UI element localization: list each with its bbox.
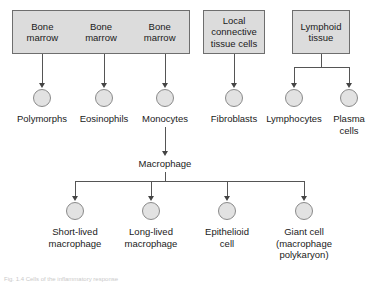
connector-macrophage-stem bbox=[165, 172, 166, 181]
arrowhead-fibroblasts bbox=[231, 83, 237, 88]
cell-circle-long-lived-macrophage bbox=[142, 202, 160, 220]
cell-label-monocytes: Monocytes bbox=[128, 113, 202, 125]
derivative-label-long-lived-macrophage: Long-lived macrophage bbox=[109, 226, 193, 249]
connector-lymphoid-to-plasma-cells bbox=[349, 67, 350, 84]
arrowhead-macrophage bbox=[162, 151, 168, 156]
cell-label-lymphocytes: Lymphocytes bbox=[257, 113, 331, 125]
derivative-label-short-lived-macrophage: Short-lived macrophage bbox=[33, 226, 117, 249]
connector-macrophage-to-epithelioid bbox=[227, 181, 228, 197]
source-label-bone-marrow-1: Bone marrow bbox=[13, 21, 72, 44]
connector-lymphoid-to-lymphocytes bbox=[294, 67, 295, 84]
derivative-label-giant-cell: Giant cell (macrophage polykaryon) bbox=[258, 226, 350, 261]
figure-caption: Fig. 1.4 Cells of the inflammatory respo… bbox=[4, 276, 118, 283]
cell-circle-monocytes bbox=[156, 89, 174, 107]
connector-monocytes-to-macrophage bbox=[165, 127, 166, 152]
arrowhead-plasma-cells bbox=[346, 83, 352, 88]
derivative-label-epithelioid-cell: Epithelioid cell bbox=[185, 226, 269, 249]
connector-bone-marrow-3-to-monocytes bbox=[165, 54, 166, 84]
connector-lymphoid-tissue-stem bbox=[321, 54, 322, 67]
cell-circle-epithelioid-cell bbox=[218, 202, 236, 220]
connector-bone-marrow-1-to-polymorphs bbox=[42, 54, 43, 84]
arrowhead-giant-cell bbox=[301, 196, 307, 201]
connector-local-connective-to-fibroblasts bbox=[234, 54, 235, 84]
source-box-local-connective-tissue-cells: Local connective tissue cells bbox=[203, 10, 265, 54]
diagram-canvas: Bone marrow Bone marrow Bone marrow Loca… bbox=[0, 0, 383, 284]
source-box-bone-marrow-group: Bone marrow Bone marrow Bone marrow bbox=[12, 10, 190, 54]
connector-macrophage-bus bbox=[75, 181, 304, 182]
connector-lymphoid-tissue-bus bbox=[294, 67, 349, 68]
arrowhead-long-lived-macrophage bbox=[148, 196, 154, 201]
connector-bone-marrow-2-to-eosinophils bbox=[104, 54, 105, 84]
arrowhead-epithelioid-cell bbox=[224, 196, 230, 201]
arrowhead-polymorphs bbox=[39, 83, 45, 88]
source-box-lymphoid-tissue: Lymphoid tissue bbox=[292, 10, 350, 54]
arrowhead-eosinophils bbox=[101, 83, 107, 88]
cell-circle-short-lived-macrophage bbox=[66, 202, 84, 220]
source-label-bone-marrow-3: Bone marrow bbox=[130, 21, 189, 44]
arrowhead-short-lived-macrophage bbox=[72, 196, 78, 201]
connector-macrophage-to-short-lived bbox=[75, 181, 76, 197]
connector-macrophage-to-long-lived bbox=[151, 181, 152, 197]
source-label-lymphoid-tissue: Lymphoid tissue bbox=[293, 21, 349, 44]
cell-circle-lymphocytes bbox=[285, 89, 303, 107]
arrowhead-lymphocytes bbox=[291, 83, 297, 88]
cell-circle-giant-cell bbox=[295, 202, 313, 220]
cell-label-plasma-cells: Plasma cells bbox=[324, 113, 374, 136]
intermediate-label-macrophage: Macrophage bbox=[120, 158, 210, 170]
cell-circle-fibroblasts bbox=[225, 89, 243, 107]
source-label-bone-marrow-2: Bone marrow bbox=[72, 21, 131, 44]
arrowhead-monocytes bbox=[162, 83, 168, 88]
source-label-local-connective-tissue-cells: Local connective tissue cells bbox=[204, 15, 264, 50]
cell-circle-polymorphs bbox=[33, 89, 51, 107]
connector-macrophage-to-giant-cell bbox=[304, 181, 305, 197]
cell-circle-eosinophils bbox=[95, 89, 113, 107]
cell-circle-plasma-cells bbox=[340, 89, 358, 107]
